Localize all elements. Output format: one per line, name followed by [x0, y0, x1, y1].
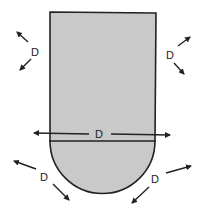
center-arrow-left	[34, 133, 89, 134]
center-arrow-right	[111, 134, 170, 135]
upper-left-arrow-up	[17, 32, 28, 42]
upper-right-arrow-down	[174, 63, 184, 74]
upper-left-label: D	[31, 46, 39, 58]
lower-left-arrow-up	[14, 161, 36, 169]
capsule-shape	[50, 12, 156, 194]
upper-left-arrow-down	[20, 59, 31, 70]
lower-left-arrow-down	[53, 184, 69, 200]
center-label: D	[95, 128, 103, 140]
lower-right-label: D	[151, 173, 159, 185]
upper-right-arrow-up	[178, 37, 190, 46]
lower-right-arrow-up	[166, 166, 191, 173]
upper-right-label: D	[166, 49, 174, 61]
lower-left-label: D	[40, 171, 48, 183]
lower-right-arrow-down	[132, 187, 149, 203]
diagram-canvas: D D D D D	[0, 0, 204, 216]
